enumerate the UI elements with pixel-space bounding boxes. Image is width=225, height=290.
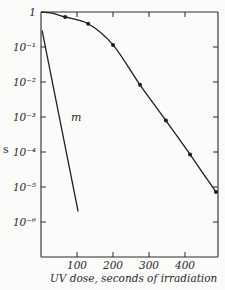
plot-frame xyxy=(41,12,218,257)
y-axis-label: s xyxy=(3,143,9,156)
series-m-label: m xyxy=(71,111,81,124)
y-tick-label: 10⁻² xyxy=(13,76,36,88)
axis-ticks xyxy=(41,12,218,257)
data-point xyxy=(63,15,67,19)
data-points xyxy=(63,15,218,194)
survival-chart: 110⁻¹10⁻²10⁻³10⁻⁴10⁻⁵10⁻⁶ 100200300400 m xyxy=(0,0,225,290)
x-tick-label: 200 xyxy=(102,259,123,271)
x-tick-label: 400 xyxy=(174,259,195,271)
data-point xyxy=(164,119,168,123)
data-point xyxy=(138,83,142,87)
x-tick-label: 300 xyxy=(139,259,159,271)
y-tick-label: 10⁻⁴ xyxy=(13,146,36,158)
x-tick-label: 100 xyxy=(67,259,87,271)
y-tick-label: 10⁻¹ xyxy=(13,41,36,53)
y-tick-label: 1 xyxy=(29,6,36,18)
y-tick-label: 10⁻³ xyxy=(13,111,36,123)
data-point xyxy=(214,190,218,194)
survival-curve xyxy=(41,12,216,192)
x-tick-labels: 100200300400 xyxy=(67,259,195,271)
y-tick-label: 10⁻⁵ xyxy=(13,181,37,193)
x-axis-label: UV dose, seconds of irradiation xyxy=(50,272,217,284)
data-point xyxy=(188,152,192,156)
y-tick-labels: 110⁻¹10⁻²10⁻³10⁻⁴10⁻⁵10⁻⁶ xyxy=(13,6,37,228)
data-point xyxy=(86,22,90,26)
y-tick-label: 10⁻⁶ xyxy=(13,216,37,228)
data-point xyxy=(111,43,115,47)
